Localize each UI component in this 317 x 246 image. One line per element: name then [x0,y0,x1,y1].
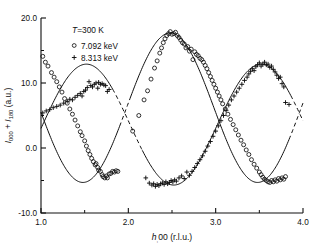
data-point-circle [226,112,230,116]
legend-plus-marker [72,55,77,60]
data-point-circle [80,134,84,138]
data-point-circle [46,64,50,68]
legend: T=300 K7.092 keV8.313 keV [72,25,119,63]
data-point-circle [160,46,164,50]
data-point-plus [95,86,100,91]
data-point-circle [43,60,47,64]
data-point-circle [236,133,240,137]
data-point-plus [182,176,187,181]
data-point-circle [210,78,214,82]
data-point-circle [155,59,159,63]
data-point-circle [84,144,88,148]
data-point-circle [234,128,238,132]
data-point-circle [153,66,157,70]
y-axis-title: I000 + I180 (a.u.) [3,88,14,144]
data-point-circle [249,158,253,162]
data-point-circle [146,89,150,93]
data-point-circle [49,71,53,75]
scatter-plot: 1.02.03.04.0-10.00.010.020.0 T=300 K7.09… [0,0,317,246]
data-point-plus [234,90,239,95]
data-point-circle [212,82,216,86]
data-point-plus [185,170,190,175]
data-point-circle [247,153,251,157]
y-tick-label: 10.0 [21,79,37,88]
data-point-circle [142,98,146,102]
data-point-circle [60,90,64,94]
fit-curve-dashed-8313 [291,95,303,120]
series-circle-points [41,30,288,185]
y-tick-label: 0.0 [26,144,38,153]
data-point-circle [57,85,61,89]
data-point-circle [149,77,153,81]
data-point-circle [208,75,212,79]
data-point-circle [76,124,80,128]
fit-curve-solid-7092 [41,112,120,182]
fit-curve-dashed-8313 [113,89,143,150]
data-point-circle [214,86,218,90]
fit-curve-solid-8313 [142,64,290,185]
data-point-circle [229,117,233,121]
data-point-circle [252,162,256,166]
data-point-circle [244,148,248,152]
data-point-circle [207,71,211,75]
data-point-circle [242,143,246,147]
fit-curve-solid-7092 [130,33,289,183]
data-point-circle [158,51,162,55]
y-tick-label: -10.0 [18,209,37,218]
data-point-circle [63,97,67,101]
x-tick-label: 3.0 [210,218,222,227]
data-point-circle [205,67,209,71]
data-point-plus [144,176,149,181]
y-tick-label: 20.0 [21,14,37,23]
data-point-circle [70,112,74,116]
x-tick-label: 1.0 [35,218,47,227]
x-tick-label: 2.0 [123,218,135,227]
data-point-circle [161,41,165,45]
data-point-circle [255,166,259,170]
data-point-circle [231,123,235,127]
data-point-plus [237,86,242,91]
data-point-circle [55,80,59,84]
data-point-circle [86,149,90,153]
legend-label-7092: 7.092 keV [81,42,118,51]
data-point-circle [83,139,87,143]
data-point-circle [68,107,72,111]
legend-temperature: T=300 K [72,25,104,35]
data-point-circle [137,114,141,118]
data-point-circle [217,94,221,98]
data-point-circle [96,166,100,170]
data-point-circle [221,102,225,106]
data-point-circle [219,98,223,102]
data-point-plus [242,78,247,83]
x-axis-title: h,00 (r.l.u.) [152,232,193,243]
data-point-circle [73,118,77,122]
data-point-plus [240,82,245,87]
legend-circle-marker [72,44,76,48]
axis-tick-labels: 1.02.03.04.0-10.00.010.020.0 [18,14,309,227]
fit-curve-dashed-7092 [289,103,303,140]
x-tick-label: 4.0 [297,218,309,227]
data-point-circle [239,138,243,142]
data-point-circle [215,90,219,94]
data-point-plus [70,98,75,103]
data-point-circle [78,130,82,134]
legend-label-8313: 8.313 keV [81,54,118,63]
data-point-circle [52,75,56,79]
figure-container: 1.02.03.04.0-10.00.010.020.0 T=300 K7.09… [0,0,317,246]
data-point-circle [88,153,92,157]
